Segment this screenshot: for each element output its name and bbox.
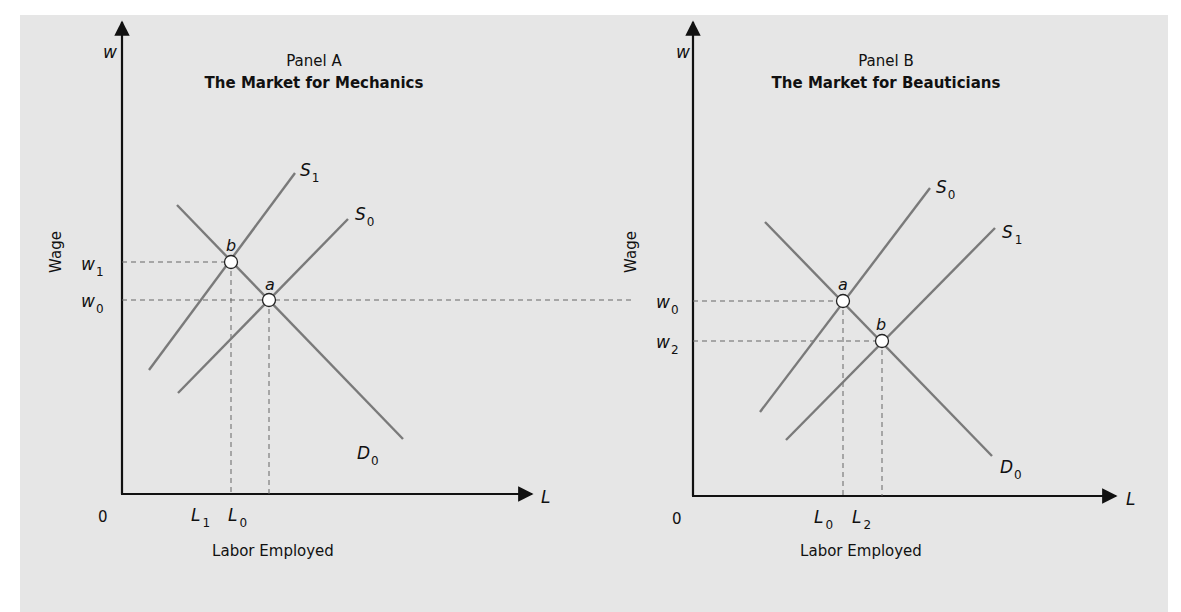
labor-market-figure: Panel A The Market for Mechanics w L 0 W…	[0, 0, 1181, 612]
panel-b: Panel B The Market for Beauticians w L 0…	[622, 22, 1135, 560]
panel-a-x-label: Labor Employed	[212, 542, 334, 560]
panel-b-origin: 0	[672, 510, 682, 528]
panel-a-point-b	[225, 256, 238, 269]
panel-a-label: Panel A	[286, 52, 342, 70]
panel-b-l0-label: L0	[814, 507, 833, 532]
panel-b-x-symbol: L	[1126, 489, 1135, 509]
panel-b-point-a-label: a	[838, 275, 848, 294]
panel-a-point-a-label: a	[265, 275, 275, 294]
panel-a-origin: 0	[98, 508, 108, 526]
panel-a-x-symbol: L	[541, 487, 550, 507]
panel-a-supply-s0	[178, 219, 348, 393]
panel-a-d0-label: D0	[357, 443, 379, 468]
panel-a-s0-label: S0	[355, 204, 374, 229]
panel-a-supply-s1	[149, 173, 295, 370]
panel-b-d0-label: D0	[1000, 457, 1022, 482]
panel-a-y-symbol: w	[103, 42, 117, 62]
panel-a-l0-label: L0	[228, 505, 247, 530]
panel-a-point-b-label: b	[226, 236, 236, 255]
panel-b-x-label: Labor Employed	[800, 542, 922, 560]
panel-a-title: The Market for Mechanics	[205, 74, 424, 92]
panel-b-l2-label: L2	[852, 507, 871, 532]
panel-b-w0-label: w0	[656, 292, 679, 317]
panel-b-point-b	[876, 335, 889, 348]
panel-a-w0-label: w0	[81, 291, 104, 316]
panel-b-label: Panel B	[858, 52, 914, 70]
panel-b-supply-s1	[786, 228, 995, 440]
panel-a-demand-d0	[177, 205, 403, 439]
panel-a-y-label: Wage	[47, 231, 65, 273]
panel-a-w1-label: w1	[81, 254, 104, 279]
panel-b-y-symbol: w	[676, 42, 690, 62]
panel-b-s0-label: S0	[936, 177, 955, 202]
panel-b-title: The Market for Beauticians	[772, 74, 1001, 92]
panel-a-point-a	[263, 294, 276, 307]
panel-b-w2-label: w2	[656, 332, 679, 357]
panel-a-l1-label: L1	[191, 505, 210, 530]
panel-b-point-b-label: b	[876, 315, 886, 334]
panel-b-y-label: Wage	[622, 231, 640, 273]
panel-a-s1-label: S1	[300, 160, 319, 185]
panel-b-s1-label: S1	[1002, 222, 1022, 247]
panel-b-point-a	[837, 295, 850, 308]
panel-a: Panel A The Market for Mechanics w L 0 W…	[47, 22, 632, 560]
